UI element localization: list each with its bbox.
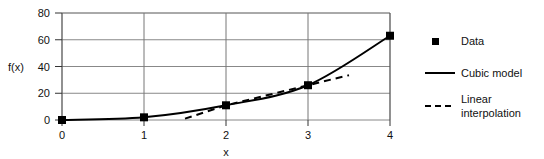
x-tick-label-3: 3 [305, 129, 311, 141]
y-tick-label-40: 40 [38, 61, 50, 73]
data-point-marker [222, 101, 230, 109]
data-point-marker [386, 32, 394, 40]
y-tick-label-80: 80 [38, 7, 50, 19]
legend-label-cubic-model: Cubic model [461, 67, 522, 79]
legend-label-data: Data [461, 35, 485, 47]
data-point-marker [140, 113, 148, 121]
y-tick-label-60: 60 [38, 34, 50, 46]
x-tick-label-4: 4 [387, 129, 393, 141]
y-tick-marks [55, 13, 62, 120]
chart-svg: 80 60 40 20 0 f(x) 0 1 2 3 4 x Data Cubi… [0, 0, 544, 159]
legend-label-linear-interpolation-line1: Linear [461, 93, 492, 105]
data-point-marker [58, 116, 66, 124]
x-tick-label-0: 0 [59, 129, 65, 141]
x-tick-label-2: 2 [223, 129, 229, 141]
x-tick-marks [62, 120, 390, 126]
x-tick-label-1: 1 [141, 129, 147, 141]
legend-label-linear-interpolation-line2: interpolation [461, 107, 521, 119]
y-tick-label-0: 0 [44, 114, 50, 126]
figure-container: 80 60 40 20 0 f(x) 0 1 2 3 4 x Data Cubi… [0, 0, 544, 159]
data-point-marker [304, 81, 312, 89]
x-axis-title: x [223, 146, 229, 158]
y-axis-title: f(x) [8, 61, 24, 73]
legend-square-marker-icon [432, 38, 439, 45]
legend: Data Cubic model Linear interpolation [425, 35, 522, 119]
y-tick-label-20: 20 [38, 87, 50, 99]
